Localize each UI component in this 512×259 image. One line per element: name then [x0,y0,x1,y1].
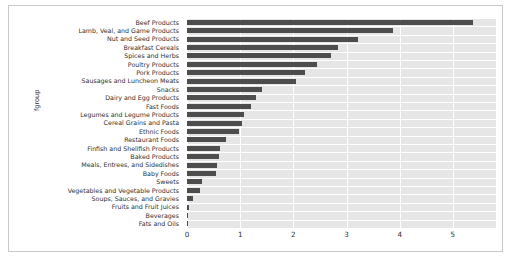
y-tick-label: Finfish and Shellfish Products [7,145,179,152]
gridline-x-4 [400,18,401,228]
bar [187,87,262,92]
bar [187,45,338,50]
bar [187,53,331,58]
bar [187,70,305,75]
row-separator [187,186,496,187]
bar [187,28,393,33]
bar [187,112,244,117]
y-tick-label: Sweets [7,178,179,185]
bar [187,121,242,126]
y-tick-label: Poultry Products [7,61,179,68]
y-tick-label: Dairy and Egg Products [7,94,179,101]
y-tick-label: Spices and Herbs [7,52,179,59]
bar [187,205,189,210]
y-tick-label: Meals, Entrees, and Sidedishes [7,161,179,168]
y-tick-label: Baby Foods [7,170,179,177]
y-tick-label: Sausages and Luncheon Meats [7,77,179,84]
y-tick-label: Ethnic Foods [7,128,179,135]
bar [187,188,200,193]
bar [187,20,473,25]
x-tick-label: 5 [451,230,456,239]
y-tick-label: Soups, Sauces, and Gravies [7,195,179,202]
row-separator [187,194,496,195]
y-tick-label: Snacks [7,86,179,93]
y-axis-tick-labels: Beef ProductsLamb, Veal, and Game Produc… [9,18,183,228]
x-tick-label: 4 [397,230,402,239]
bar [187,79,296,84]
bar [187,37,358,42]
y-tick-label: Breakfast Cereals [7,44,179,51]
bar [187,95,256,100]
bar [187,179,202,184]
y-tick-label: Beverages [7,212,179,219]
y-tick-label: Beef Products [7,19,179,26]
x-tick-label: 2 [291,230,296,239]
y-tick-label: Fats and Oils [7,220,179,227]
bar [187,163,217,168]
y-tick-label: Baked Products [7,153,179,160]
bar [187,213,188,218]
row-separator [187,228,496,229]
bar [187,171,216,176]
y-tick-label: Fast Foods [7,103,179,110]
bar [187,104,251,109]
figure-frame: fgroup Beef ProductsLamb, Veal, and Game… [8,5,503,252]
y-tick-label: Restaurant Foods [7,136,179,143]
y-tick-label: Pork Products [7,69,179,76]
y-tick-label: Nut and Seed Products [7,35,179,42]
row-separator [187,203,496,204]
bar [187,221,188,226]
gridline-x-3 [347,18,348,228]
y-tick-label: Fruits and Fruit Juices [7,203,179,210]
row-separator [187,144,496,145]
bar [187,62,317,67]
figure-canvas: fgroup Beef ProductsLamb, Veal, and Game… [0,0,512,259]
row-separator [187,220,496,221]
gridline-x-5 [453,18,454,228]
row-separator [187,211,496,212]
bar [187,137,226,142]
plot-area [187,18,496,228]
y-tick-label: Cereal Grains and Pasta [7,119,179,126]
y-tick-label: Legumes and Legume Products [7,111,179,118]
row-separator [187,178,496,179]
row-separator [187,161,496,162]
x-tick-label: 0 [185,230,190,239]
y-tick-label: Vegetables and Vegetable Products [7,187,179,194]
x-tick-label: 3 [344,230,349,239]
row-separator [187,152,496,153]
bar [187,129,239,134]
bar [187,146,220,151]
row-separator [187,169,496,170]
x-tick-label: 1 [238,230,243,239]
row-separator [187,136,496,137]
x-axis-tick-labels: 012345 [187,230,496,246]
bar [187,196,193,201]
bar [187,154,219,159]
y-tick-label: Lamb, Veal, and Game Products [7,27,179,34]
